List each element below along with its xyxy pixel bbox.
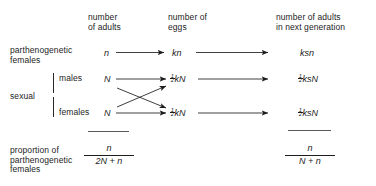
arrow-females-to-males-eggs-crossing: [117, 86, 166, 107]
arrow-males-to-females-eggs-crossing: [117, 88, 166, 108]
flow-diagram: number of adults number of eggs number o…: [0, 0, 376, 186]
arrow-layer: [0, 0, 376, 186]
